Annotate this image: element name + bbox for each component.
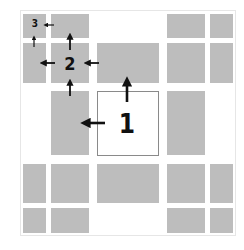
label-level-3: 3 [30,19,40,29]
label-level-2: 2 [62,55,78,73]
label-level-1: 1 [114,111,140,137]
